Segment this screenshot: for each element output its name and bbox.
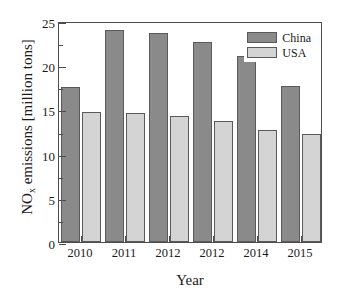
y-tick-label: 25 xyxy=(42,16,55,32)
x-tick xyxy=(301,236,302,242)
bar-usa-2014-4 xyxy=(258,130,277,242)
x-tick xyxy=(169,236,170,242)
bar-usa-2010-0 xyxy=(82,112,101,242)
x-tick xyxy=(213,236,214,242)
bar-china-2015-5 xyxy=(281,86,300,242)
y-tick-major: 20 xyxy=(59,67,66,68)
y-tick-minor xyxy=(59,134,63,135)
y-axis-title-suffix: emissions [million tons] xyxy=(19,39,35,188)
bar-china-2014-4 xyxy=(237,56,256,242)
x-tick xyxy=(81,236,82,242)
legend-swatch-china-icon xyxy=(247,32,277,43)
y-tick-major: 15 xyxy=(59,111,66,112)
chart-figure: NOx emissions [million tons] Year 051015… xyxy=(0,0,344,299)
y-tick-label: 0 xyxy=(49,237,56,253)
x-tick-label: 2011 xyxy=(112,246,137,261)
y-tick-minor xyxy=(59,178,63,179)
bar-usa-2011-1 xyxy=(126,113,145,242)
plot-area: 0510152025 China USA xyxy=(58,22,322,243)
y-tick-major: 25 xyxy=(59,23,66,24)
x-tick-label: 2015 xyxy=(288,246,313,261)
y-tick-label: 20 xyxy=(42,60,55,76)
y-axis-title-subscript: x xyxy=(26,188,37,193)
x-tick xyxy=(125,236,126,242)
bar-china-2011-1 xyxy=(105,30,124,242)
bar-usa-2015-5 xyxy=(302,134,321,242)
bar-china-2012-2 xyxy=(149,33,168,242)
x-tick-label: 2012 xyxy=(156,246,181,261)
bar-usa-2012-2 xyxy=(170,116,189,242)
x-tick-label: 2012 xyxy=(200,246,225,261)
y-tick-major: 0 xyxy=(59,244,66,245)
y-axis-title-prefix: NO xyxy=(19,193,35,215)
x-tick-label: 2010 xyxy=(68,246,93,261)
y-tick-major: 10 xyxy=(59,156,66,157)
legend-swatch-usa-icon xyxy=(247,47,277,58)
legend-item-china: China xyxy=(247,30,311,45)
legend-item-usa: USA xyxy=(247,45,311,60)
y-axis-title: NOx emissions [million tons] xyxy=(19,7,37,247)
y-tick-minor xyxy=(59,89,63,90)
y-tick-minor xyxy=(59,45,63,46)
y-tick-major: 5 xyxy=(59,200,66,201)
legend-label-china: China xyxy=(282,32,311,44)
x-tick xyxy=(257,236,258,242)
y-tick-label: 15 xyxy=(42,104,55,120)
y-tick-label: 10 xyxy=(42,149,55,165)
y-tick-minor xyxy=(59,222,63,223)
y-tick-label: 5 xyxy=(49,193,56,209)
legend: China USA xyxy=(244,28,315,62)
bar-usa-2012-3 xyxy=(214,121,233,242)
bar-china-2012-3 xyxy=(193,42,212,242)
x-tick-label: 2014 xyxy=(244,246,269,261)
legend-label-usa: USA xyxy=(282,47,306,59)
x-axis-title: Year xyxy=(58,272,322,289)
